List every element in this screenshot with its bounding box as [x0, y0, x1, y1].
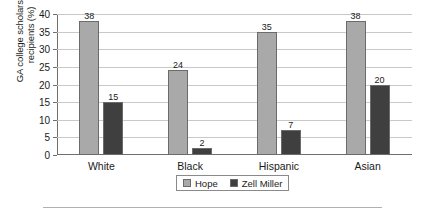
bar-chart-figure: GA college scholarship recipients (%) 05… [0, 0, 424, 218]
bar[interactable]: 38 [346, 21, 366, 155]
legend-label-hope: Hope [195, 178, 218, 189]
bar[interactable]: 2 [192, 148, 212, 155]
legend-item-hope[interactable]: Hope [183, 178, 218, 189]
bar-value-label: 24 [173, 60, 183, 70]
bar[interactable]: 38 [79, 21, 99, 155]
x-axis-category-label: Black [177, 160, 203, 172]
legend-item-zell-miller[interactable]: Zell Miller [230, 178, 283, 189]
y-tick-label: 15 [39, 97, 50, 108]
legend-swatch-zell-miller [230, 179, 238, 187]
y-tick-label: 40 [39, 9, 50, 20]
bar[interactable]: 20 [370, 85, 390, 156]
plot-area-wrapper: 0510152025303540 3815White242Black357His… [57, 14, 412, 155]
bar-group: 3820Asian [323, 14, 412, 155]
y-tick-label: 0 [44, 150, 50, 161]
y-tick-mark [53, 155, 57, 156]
x-axis-category-label: Hispanic [259, 160, 299, 172]
y-tick-label: 25 [39, 61, 50, 72]
y-tick-label: 5 [44, 132, 50, 143]
bar-value-label: 35 [262, 22, 272, 32]
bar-value-label: 15 [108, 92, 118, 102]
bar-value-label: 38 [351, 11, 361, 21]
y-tick-label: 35 [39, 26, 50, 37]
x-axis-category-label: Asian [354, 160, 380, 172]
bar-value-label: 2 [200, 138, 205, 148]
y-axis-title: GA college scholarship recipients (%) [8, 0, 42, 115]
bar[interactable]: 7 [281, 130, 301, 155]
y-tick-label: 20 [39, 79, 50, 90]
legend-swatch-hope [183, 179, 191, 187]
legend-label-zell-miller: Zell Miller [242, 178, 283, 189]
bar[interactable]: 15 [103, 102, 123, 155]
y-tick-label: 30 [39, 44, 50, 55]
x-axis-category-label: White [88, 160, 115, 172]
bar[interactable]: 35 [257, 32, 277, 155]
bar[interactable]: 24 [168, 70, 188, 155]
bar-group: 357Hispanic [235, 14, 324, 155]
y-tick-label: 10 [39, 114, 50, 125]
bar-value-label: 7 [288, 120, 293, 130]
chart-legend: Hope Zell Miller [176, 175, 289, 191]
bar-value-label: 38 [84, 11, 94, 21]
bar-value-label: 20 [375, 75, 385, 85]
bar-group: 3815White [57, 14, 146, 155]
bar-group: 242Black [146, 14, 235, 155]
footer-divider [43, 207, 382, 208]
